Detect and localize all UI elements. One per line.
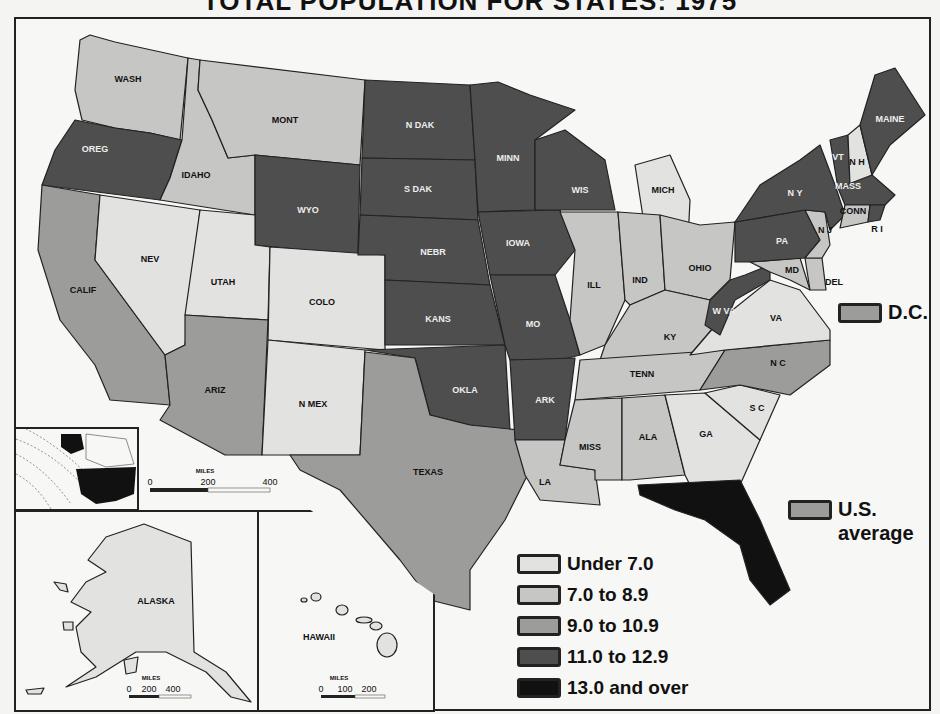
state-nmex [262, 340, 365, 455]
alaska-inset: ALASKA MILES 0 200 400 ALASKA [14, 510, 259, 712]
svg-text:WYO: WYO [297, 205, 319, 215]
legend-item-9-to-10.9: 9.0 to 10.9 [517, 610, 688, 641]
svg-text:MINN: MINN [497, 153, 520, 163]
svg-text:OKLA: OKLA [452, 385, 478, 395]
svg-text:PA: PA [776, 236, 788, 246]
legend-swatch [517, 554, 561, 574]
svg-text:DEL: DEL [825, 277, 844, 287]
svg-text:MAINE: MAINE [876, 114, 905, 124]
svg-text:IOWA: IOWA [506, 238, 530, 248]
svg-text:N DAK: N DAK [406, 120, 435, 130]
svg-text:VA: VA [770, 313, 782, 323]
svg-text:N J: N J [818, 225, 832, 235]
us-average-key: U.S. average [788, 497, 914, 545]
svg-text:MASS: MASS [835, 181, 861, 191]
svg-text:MILES: MILES [142, 675, 160, 681]
svg-text:0: 0 [126, 684, 131, 694]
us-average-label: U.S. average [838, 497, 914, 545]
svg-text:MD: MD [785, 265, 799, 275]
svg-text:GA: GA [699, 429, 713, 439]
svg-text:400: 400 [262, 477, 277, 487]
svg-text:ARK: ARK [535, 395, 555, 405]
svg-text:CONN: CONN [840, 206, 867, 216]
svg-text:OHIO: OHIO [688, 263, 711, 273]
svg-text:KANS: KANS [425, 314, 451, 324]
svg-text:IDAHO: IDAHO [182, 170, 211, 180]
svg-text:COLO: COLO [309, 297, 335, 307]
svg-text:200: 200 [361, 684, 376, 694]
dc-swatch [838, 303, 882, 323]
svg-text:UTAH: UTAH [211, 277, 235, 287]
svg-text:N C: N C [770, 358, 786, 368]
legend-swatch [517, 678, 561, 698]
legend-item-under-7: Under 7.0 [517, 548, 688, 579]
svg-text:N Y: N Y [788, 188, 803, 198]
legend-item-13-and-over: 13.0 and over [517, 672, 688, 703]
svg-text:200: 200 [200, 477, 215, 487]
svg-text:MONT: MONT [272, 115, 299, 125]
svg-text:100: 100 [337, 684, 352, 694]
svg-text:ILL: ILL [587, 280, 601, 290]
svg-text:MICH: MICH [652, 185, 675, 195]
locator-inset [14, 427, 139, 511]
svg-text:WIS: WIS [572, 185, 589, 195]
svg-text:S DAK: S DAK [404, 184, 433, 194]
state-ri [868, 205, 885, 222]
svg-text:S C: S C [749, 403, 765, 413]
dc-label: D.C. [888, 300, 928, 324]
north-america-locator-icon [16, 429, 137, 509]
svg-text:400: 400 [165, 684, 180, 694]
svg-text:W VA: W VA [713, 306, 736, 316]
svg-text:OREG: OREG [82, 144, 109, 154]
svg-text:IND: IND [632, 275, 648, 285]
svg-text:LA: LA [539, 477, 551, 487]
state-ind [618, 212, 665, 305]
dc-key: D.C. [838, 300, 928, 324]
svg-text:NEV: NEV [141, 254, 160, 264]
svg-text:MILES: MILES [330, 675, 348, 681]
svg-text:WASH: WASH [115, 74, 142, 84]
svg-text:ALASKA: ALASKA [137, 596, 175, 606]
alaska-map: ALASKA MILES 0 200 400 [16, 512, 257, 710]
svg-text:MILES: MILES [196, 468, 214, 474]
svg-text:ARIZ: ARIZ [205, 385, 226, 395]
svg-text:HAWAII: HAWAII [303, 632, 335, 642]
svg-text:KY: KY [664, 332, 677, 342]
svg-text:TENN: TENN [630, 369, 655, 379]
svg-text:0: 0 [318, 684, 323, 694]
legend: Under 7.0 7.0 to 8.9 9.0 to 10.9 11.0 to… [517, 548, 688, 703]
legend-swatch [517, 616, 561, 636]
svg-text:N H: N H [849, 157, 865, 167]
svg-text:R I: R I [871, 224, 883, 234]
us-average-swatch [788, 500, 832, 520]
main-scale-bar: MILES 0 200 400 [147, 468, 277, 492]
svg-text:TEXAS: TEXAS [413, 467, 443, 477]
svg-text:NEBR: NEBR [420, 247, 446, 257]
state-wis [535, 130, 615, 210]
svg-text:VT: VT [832, 152, 844, 162]
svg-text:0: 0 [147, 477, 152, 487]
state-kans [385, 280, 505, 345]
svg-text:200: 200 [141, 684, 156, 694]
legend-item-11-to-12.9: 11.0 to 12.9 [517, 641, 688, 672]
legend-item-7-to-8.9: 7.0 to 8.9 [517, 579, 688, 610]
legend-swatch [517, 647, 561, 667]
svg-text:MISS: MISS [579, 442, 601, 452]
svg-text:MO: MO [526, 319, 541, 329]
legend-swatch [517, 585, 561, 605]
svg-text:CALIF: CALIF [70, 285, 97, 295]
svg-text:N MEX: N MEX [299, 399, 328, 409]
svg-text:ALA: ALA [639, 432, 658, 442]
